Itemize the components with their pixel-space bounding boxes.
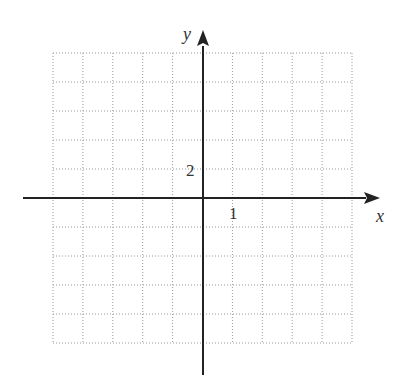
x-axis-label: x	[375, 206, 384, 226]
y-axis-label: y	[181, 24, 191, 44]
x-axis-arrow-icon	[364, 192, 380, 204]
y-axis-arrow-icon	[197, 30, 209, 46]
y-tick-label: 2	[186, 161, 195, 180]
x-tick-label: 1	[229, 204, 238, 223]
coordinate-graph: y x 2 1	[0, 0, 395, 384]
